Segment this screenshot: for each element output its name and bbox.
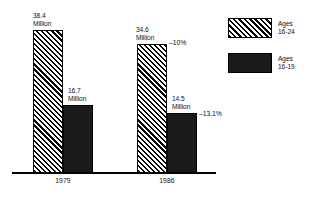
- plot-area: 38.4 Million 16.7 Million 1979 34.6 Mill…: [0, 0, 230, 204]
- value-label-1979-ages-16-19: 16.7 Million: [68, 87, 108, 102]
- axis-tick-1986: 1986: [147, 177, 187, 185]
- legend-label-ages-16-19: Ages 16-19: [278, 55, 295, 71]
- bar-1979-ages-16-19: [63, 105, 93, 173]
- change-label-1986-ages-16-24: –10%: [169, 39, 186, 47]
- legend-item-ages-16-24: Ages 16-24: [228, 18, 310, 40]
- legend-swatch-hatched-icon: [228, 18, 272, 38]
- change-label-1986-ages-16-19: –13.1%: [199, 110, 222, 118]
- bar-1979-ages-16-24: [33, 30, 63, 173]
- value-label-1986-ages-16-19: 14.5 Million: [172, 95, 212, 110]
- value-label-1979-ages-16-24: 38.4 Million: [33, 12, 73, 27]
- bar-chart: 38.4 Million 16.7 Million 1979 34.6 Mill…: [0, 0, 312, 204]
- axis-tick-1979: 1979: [43, 177, 83, 185]
- legend-swatch-solid-icon: [228, 53, 272, 73]
- bar-1986-ages-16-19: [167, 113, 197, 173]
- bar-1986-ages-16-24: [137, 44, 167, 173]
- legend: Ages 16-24 Ages 16-19: [228, 18, 310, 80]
- x-axis-baseline: [12, 172, 216, 174]
- legend-item-ages-16-19: Ages 16-19: [228, 53, 310, 75]
- legend-label-ages-16-24: Ages 16-24: [278, 20, 295, 36]
